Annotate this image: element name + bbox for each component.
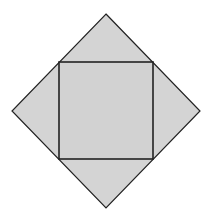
inner-square [59,62,153,159]
diagram-canvas [0,0,211,223]
